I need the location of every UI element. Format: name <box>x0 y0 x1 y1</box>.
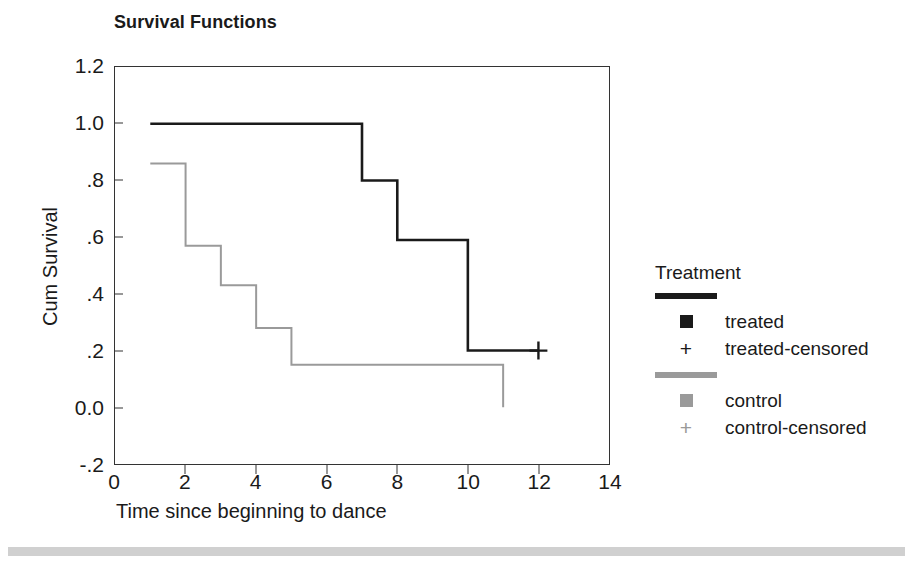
x-axis-title: Time since beginning to dance <box>116 500 387 523</box>
footer-band <box>8 547 905 556</box>
legend-line-control <box>655 372 717 378</box>
y-axis-tick-label: .6 <box>86 225 104 249</box>
legend-row-treated-censored: +treated-censored <box>655 335 905 362</box>
x-axis-tick-mark <box>255 465 256 474</box>
legend-row-control: control <box>655 387 905 414</box>
y-axis-title: Cum Survival <box>39 172 62 362</box>
legend-swatch-treated <box>680 315 693 328</box>
survival-curves-svg <box>115 67 609 464</box>
legend-swatch-control <box>680 394 693 407</box>
y-axis-tick-label: -.2 <box>79 453 104 477</box>
legend-label-censored: control-censored <box>725 417 867 439</box>
y-axis-tick-label: .4 <box>86 282 104 306</box>
y-axis-tick-label: .8 <box>86 168 104 192</box>
x-axis-tick-mark <box>397 465 398 474</box>
legend-label: treated <box>725 311 784 333</box>
legend-line-treated <box>655 293 717 299</box>
survival-curve-treated <box>150 124 538 351</box>
legend-label-censored: treated-censored <box>725 338 869 360</box>
x-axis-tick-mark <box>326 465 327 474</box>
x-axis-tick-mark <box>539 465 540 474</box>
survival-chart-figure: Survival Functions 1.21.0.8.6.4.20.0-.2 … <box>0 0 913 561</box>
plus-icon: + <box>655 417 717 438</box>
legend-label: control <box>725 390 782 412</box>
square-icon <box>655 394 717 407</box>
y-axis-tick-mark <box>114 351 123 352</box>
x-axis-tick-label: 14 <box>598 470 621 494</box>
y-axis-tick-label: 1.0 <box>75 111 104 135</box>
legend-row-treated: treated <box>655 308 905 335</box>
censor-mark-treated <box>529 342 547 360</box>
x-axis-tick-mark <box>468 465 469 474</box>
plus-icon: + <box>655 338 717 359</box>
y-axis-tick-label: 0.0 <box>75 396 104 420</box>
legend-entries: treated+treated-censoredcontrol+control-… <box>655 293 905 441</box>
survival-curve-control <box>150 163 503 407</box>
legend-spacer <box>655 364 905 372</box>
x-axis-tick-mark <box>184 465 185 474</box>
page-title: Survival Functions <box>114 12 277 33</box>
y-axis-tick-mark <box>114 123 123 124</box>
legend-group-control: control+control-censored <box>655 372 905 441</box>
y-axis-tick-mark <box>114 408 123 409</box>
y-axis-tick-label: 1.2 <box>75 54 104 78</box>
y-axis-tick-mark <box>114 180 123 181</box>
plot-area <box>114 66 610 465</box>
y-axis-tick-mark <box>114 294 123 295</box>
square-icon <box>655 315 717 328</box>
legend-row-control-censored: +control-censored <box>655 414 905 441</box>
x-axis-tick-label: 0 <box>108 470 120 494</box>
y-axis-tick-mark <box>114 237 123 238</box>
legend-group-treated: treated+treated-censored <box>655 293 905 362</box>
y-axis-tick-label: .2 <box>86 339 104 363</box>
legend: Treatment treated+treated-censoredcontro… <box>655 262 905 443</box>
legend-title: Treatment <box>655 262 905 284</box>
